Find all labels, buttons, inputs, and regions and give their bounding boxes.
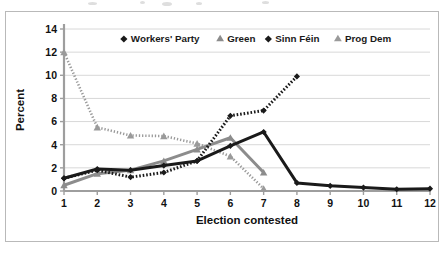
legend-entry[interactable]: Sinn Féin xyxy=(265,33,320,44)
diamond-marker xyxy=(127,174,133,180)
legend-label: Workers' Party xyxy=(131,33,200,44)
x-tick-label: 10 xyxy=(358,197,370,209)
y-axis-title: Percent xyxy=(14,89,26,131)
diamond-marker xyxy=(120,35,127,42)
x-tick-label: 12 xyxy=(424,197,436,209)
gridlines xyxy=(64,29,430,168)
diamond-marker xyxy=(261,107,267,113)
x-tick-label: 8 xyxy=(294,197,300,209)
series-line xyxy=(64,132,430,189)
x-axis-ticks: 123456789101112 xyxy=(61,191,436,209)
legend-entry[interactable]: Prog Dem xyxy=(334,33,391,44)
scan-speck xyxy=(162,2,172,6)
y-tick-label: 10 xyxy=(45,69,57,81)
x-tick-label: 6 xyxy=(227,197,233,209)
triangle-marker xyxy=(227,153,234,160)
scan-speck xyxy=(196,2,202,5)
scan-speck xyxy=(262,1,269,4)
x-tick-label: 4 xyxy=(161,197,167,209)
line-chart: 02468101214 123456789101112 Workers' Par… xyxy=(6,12,438,241)
triangle-marker xyxy=(334,35,342,42)
y-tick-label: 6 xyxy=(51,115,57,127)
series-workers-party xyxy=(61,129,433,192)
y-axis-ticks: 02468101214 xyxy=(45,23,64,197)
y-tick-label: 14 xyxy=(45,23,57,35)
y-tick-label: 2 xyxy=(51,162,57,174)
triangle-marker xyxy=(216,35,224,42)
y-tick-label: 8 xyxy=(51,92,57,104)
axis-lines xyxy=(64,24,430,191)
legend-label: Prog Dem xyxy=(345,33,392,44)
x-tick-label: 1 xyxy=(61,197,67,209)
x-tick-label: 9 xyxy=(327,197,333,209)
chart-legend: Workers' PartyGreenSinn FéinProg Dem xyxy=(120,33,391,44)
diamond-marker xyxy=(265,35,272,42)
diamond-marker xyxy=(161,169,167,175)
x-tick-label: 2 xyxy=(94,197,100,209)
chart-frame: 02468101214 123456789101112 Workers' Par… xyxy=(5,11,439,242)
legend-entry[interactable]: Workers' Party xyxy=(120,33,200,44)
y-tick-label: 4 xyxy=(51,139,57,151)
triangle-marker xyxy=(160,133,167,140)
scan-artifacts xyxy=(0,0,446,10)
scan-speck xyxy=(88,2,97,5)
triangle-marker xyxy=(260,185,267,192)
legend-label: Sinn Féin xyxy=(275,33,319,44)
diamond-marker xyxy=(294,73,300,79)
x-tick-label: 3 xyxy=(128,197,134,209)
legend-label: Green xyxy=(227,33,255,44)
legend-entry[interactable]: Green xyxy=(216,33,255,44)
diamond-marker xyxy=(327,183,333,189)
y-tick-label: 0 xyxy=(51,185,57,197)
y-tick-label: 12 xyxy=(45,46,57,58)
diamond-marker xyxy=(360,184,366,190)
data-series-group xyxy=(60,49,433,193)
diamond-marker xyxy=(61,175,67,181)
x-tick-label: 11 xyxy=(391,197,402,209)
x-axis-title: Election contested xyxy=(196,214,298,226)
triangle-marker xyxy=(94,124,101,131)
x-tick-label: 7 xyxy=(261,197,267,209)
x-tick-label: 5 xyxy=(194,197,200,209)
scan-speck xyxy=(140,1,145,4)
